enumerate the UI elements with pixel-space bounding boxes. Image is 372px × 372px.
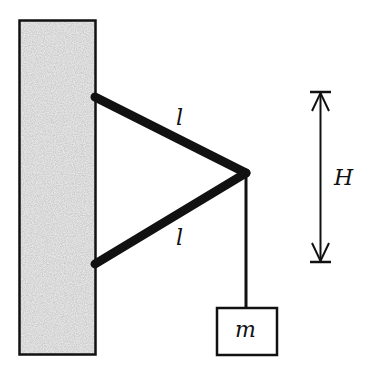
height-label: H: [334, 165, 353, 190]
mass-label: m: [235, 317, 256, 342]
upper-rod-label: l: [176, 105, 183, 130]
lower-rod: [95, 173, 246, 264]
diagram-canvas: l l H m: [0, 0, 372, 372]
height-dimension-arrow: [310, 92, 331, 262]
diagram-svg: [0, 0, 372, 372]
lower-rod-label: l: [176, 225, 183, 250]
upper-rod: [95, 97, 246, 173]
wall: [19, 20, 96, 355]
